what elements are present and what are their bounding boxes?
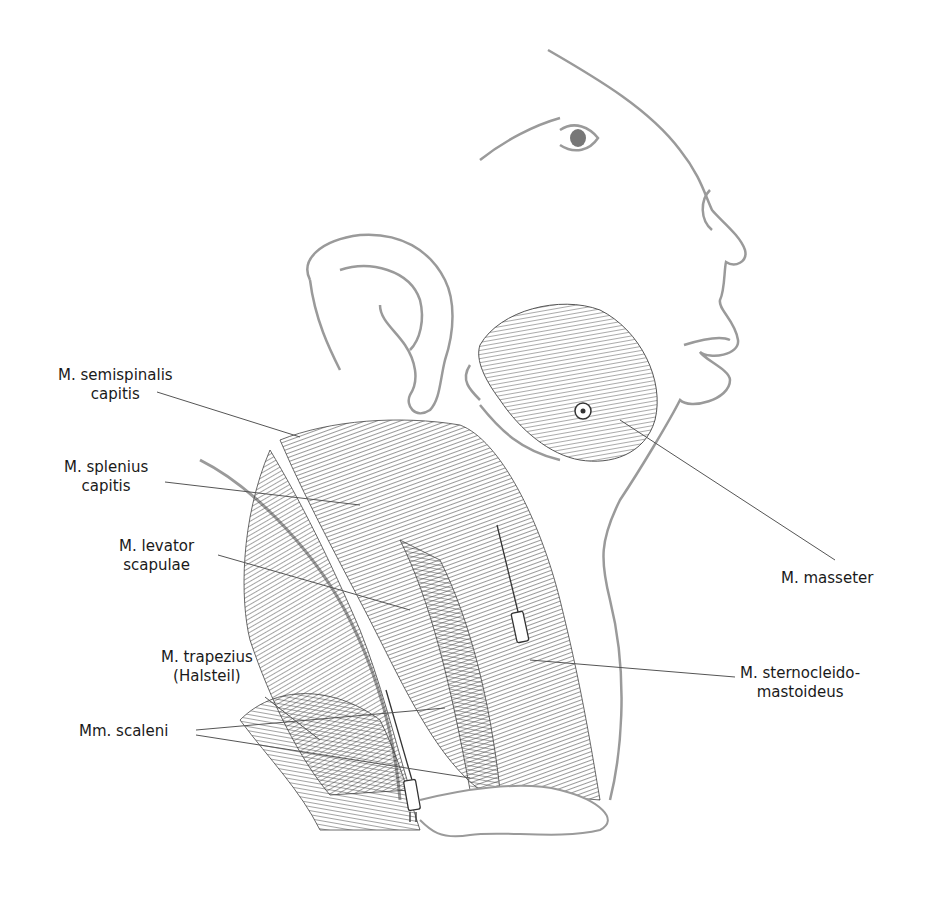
neck-muscles — [240, 420, 600, 830]
label-levator-scapulae: M. levator scapulae — [119, 537, 194, 575]
label-splenius-capitis: M. splenius capitis — [64, 458, 148, 496]
masseter-muscle — [479, 304, 658, 461]
label-trapezius: M. trapezius (Halsteil) — [161, 648, 253, 686]
neck-anatomy-illustration — [0, 0, 936, 901]
label-masseter: M. masseter — [781, 569, 873, 588]
label-sternocleidomastoideus: M. sternocleido- mastoideus — [740, 664, 860, 702]
label-semispinalis-capitis: M. semispinalis capitis — [58, 366, 173, 404]
label-scaleni: Mm. scaleni — [79, 722, 168, 741]
ear-outline — [307, 235, 452, 414]
